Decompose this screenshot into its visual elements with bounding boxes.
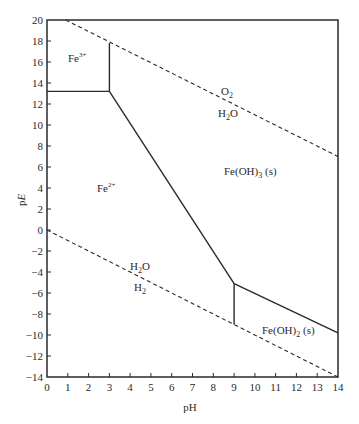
- y-tick-labels: 20 18 16 14 12 10 8 6 4 2 0 −2 −4 −6 −8 …: [26, 14, 44, 383]
- fe3-label: Fe3+: [68, 51, 87, 64]
- y-tick-label: 8: [38, 140, 44, 152]
- x-tick-label: 6: [169, 381, 175, 393]
- x-tick-label: 7: [190, 381, 196, 393]
- o2-h2o-line: [66, 20, 338, 157]
- x-tick-label: 13: [312, 381, 324, 393]
- x-tick-label: 0: [44, 381, 50, 393]
- y-tick-label: 20: [32, 14, 44, 26]
- y-tick-label: −2: [31, 245, 43, 257]
- x-tick-label: 4: [127, 381, 133, 393]
- feoh2-label: Fe(OH)2 (s): [262, 324, 315, 339]
- h2-label: H2: [134, 281, 146, 296]
- h2o-h2-line: [47, 230, 338, 377]
- y-tick-label: 4: [38, 182, 44, 194]
- y-axis-title: pE: [15, 194, 27, 207]
- x-tick-labels: 0 1 2 3 4 5 6 7 8 9 10 11 12 13 14: [44, 381, 344, 393]
- y-tick-label: −4: [31, 266, 43, 278]
- h2o-lower-label: H2O: [130, 260, 150, 275]
- phase-boundaries: [47, 43, 338, 333]
- x-tick-label: 8: [211, 381, 217, 393]
- feoh3-label: Fe(OH)3 (s): [224, 165, 277, 180]
- x-tick-label: 1: [65, 381, 71, 393]
- y-tick-label: 0: [38, 224, 44, 236]
- fe2-label: Fe2+: [97, 181, 116, 194]
- x-tick-label: 3: [107, 381, 113, 393]
- x-tick-label: 12: [291, 381, 302, 393]
- y-tick-label: 6: [38, 161, 44, 173]
- x-tick-label: 5: [148, 381, 154, 393]
- x-tick-label: 2: [86, 381, 92, 393]
- y-tick-label: −10: [26, 329, 44, 341]
- x-tick-label: 10: [249, 381, 261, 393]
- y-tick-label: −12: [26, 350, 43, 362]
- x-tick-label: 11: [270, 381, 281, 393]
- x-axis-title: pH: [183, 401, 197, 413]
- y-tick-label: 18: [32, 35, 44, 47]
- y-tick-label: 12: [32, 98, 43, 110]
- h2o-upper-label: H2O: [218, 107, 238, 122]
- o2-label: O2: [221, 85, 233, 100]
- y-tick-label: −14: [26, 371, 44, 383]
- y-tick-label: 14: [32, 77, 44, 89]
- y-tick-label: 16: [32, 56, 44, 68]
- y-tick-label: −6: [31, 287, 43, 299]
- y-tick-label: 10: [32, 119, 44, 131]
- y-tick-label: −8: [31, 308, 43, 320]
- x-tick-label: 14: [333, 381, 345, 393]
- pe-ph-diagram: 20 18 16 14 12 10 8 6 4 2 0 −2 −4 −6 −8 …: [0, 0, 359, 424]
- fe2-feoh3-boundary: [109, 91, 234, 283]
- x-tick-label: 9: [231, 381, 237, 393]
- y-tick-label: 2: [38, 203, 44, 215]
